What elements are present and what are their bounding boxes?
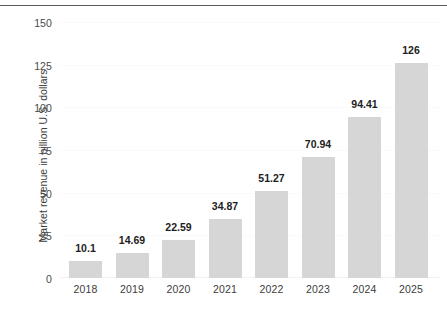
x-axis-tick-label: 2021	[200, 284, 251, 295]
header-divider	[0, 5, 447, 6]
bar-value-label: 22.59	[153, 222, 204, 233]
plot-area: 10.1 14.69 22.59 34.87 51.27 70.94 94.41	[60, 22, 440, 278]
bar[interactable]	[302, 157, 335, 278]
x-axis-tick-label: 2024	[339, 284, 390, 295]
bar[interactable]	[255, 191, 288, 279]
x-axis-tick-label: 2022	[246, 284, 297, 295]
bar-value-label: 126	[386, 45, 437, 56]
x-axis-tick-label: 2018	[60, 284, 111, 295]
gridline	[60, 193, 440, 194]
bar[interactable]	[69, 261, 102, 278]
bar-value-label: 70.94	[293, 139, 344, 150]
x-axis-tick-label: 2020	[153, 284, 204, 295]
bar[interactable]	[209, 219, 242, 279]
x-axis-tick-label: 2019	[107, 284, 158, 295]
gridline	[60, 150, 440, 151]
y-axis-tick-label: 25	[12, 231, 52, 242]
y-axis-tick-label: 100	[12, 103, 52, 114]
gridline	[60, 65, 440, 66]
bar-value-label: 14.69	[107, 235, 158, 246]
bar-value-label: 51.27	[246, 173, 297, 184]
gridline	[60, 22, 440, 23]
x-axis-tick-label: 2023	[293, 284, 344, 295]
bar[interactable]	[162, 240, 195, 279]
bar-value-label: 94.41	[339, 99, 390, 110]
bar[interactable]	[348, 117, 381, 278]
y-axis-tick-label: 50	[12, 189, 52, 200]
bar-chart: Market revenue in billion U.S. dollars 1…	[0, 0, 447, 316]
bar-value-label: 10.1	[60, 243, 111, 254]
y-axis-tick-label: 75	[12, 146, 52, 157]
y-axis-tick-label: 150	[12, 18, 52, 29]
bar[interactable]	[116, 253, 149, 278]
y-axis-tick-labels: 150 125 100 75 50 25 0	[8, 22, 52, 278]
y-axis-tick-label: 125	[12, 61, 52, 72]
bar[interactable]	[395, 63, 428, 278]
bar-value-label: 34.87	[200, 201, 251, 212]
y-axis-tick-label: 0	[12, 274, 52, 285]
x-axis-tick-label: 2025	[386, 284, 437, 295]
